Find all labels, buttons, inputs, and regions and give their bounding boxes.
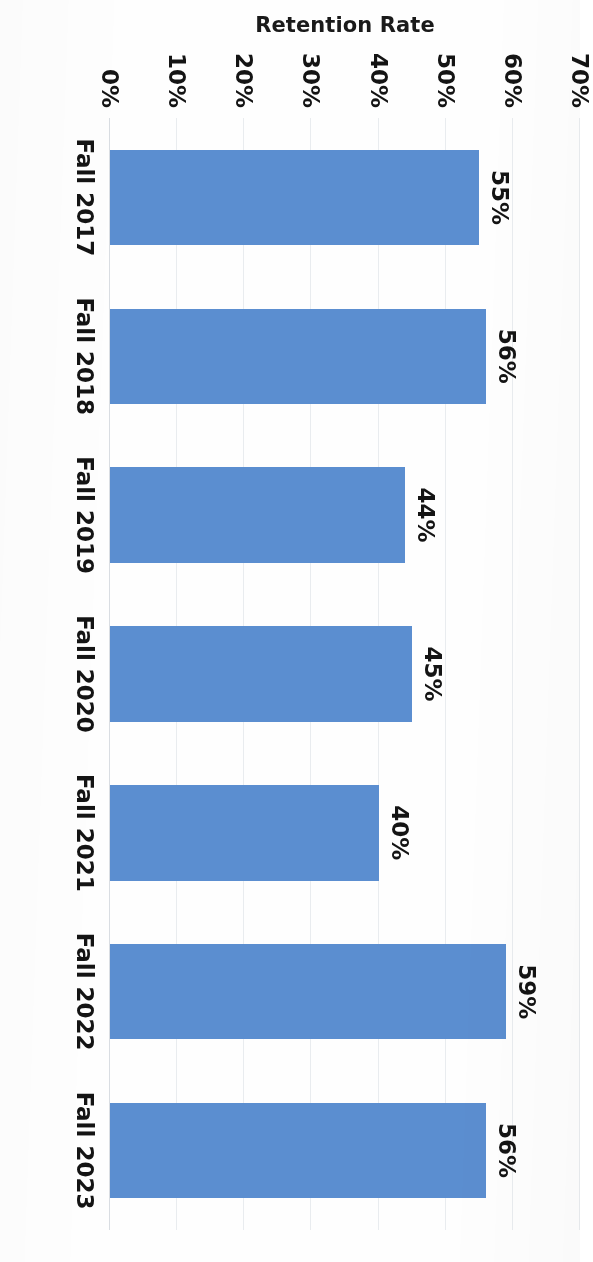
value-axis-tick-labels: 0%10%20%30%40%50%60%70% — [110, 40, 580, 114]
category-label: Fall 2022 — [72, 933, 98, 1051]
value-axis-title: Retention Rate — [110, 8, 580, 42]
bar[interactable] — [110, 1103, 486, 1198]
category-label: Fall 2020 — [72, 615, 98, 733]
plot-area: 55%56%44%45%40%59%56% — [110, 118, 580, 1230]
value-tick-label: 0% — [97, 69, 123, 108]
category-label: Fall 2021 — [72, 774, 98, 892]
bar-slot: 55% — [110, 150, 580, 245]
bar-slot: 40% — [110, 785, 580, 880]
value-axis-title-text: Retention Rate — [255, 13, 435, 37]
bar[interactable] — [110, 467, 405, 562]
bar-slot: 56% — [110, 309, 580, 404]
bar-slot: 45% — [110, 626, 580, 721]
category-label: Fall 2017 — [72, 139, 98, 257]
bar-value-label: 56% — [494, 1103, 520, 1198]
bar-value-label: 44% — [413, 467, 439, 562]
bar[interactable] — [110, 626, 412, 721]
bar[interactable] — [110, 150, 479, 245]
bar-value-label: 59% — [514, 944, 540, 1039]
bar-value-label: 40% — [387, 785, 413, 880]
value-tick-label: 40% — [366, 53, 392, 108]
value-tick-label: 30% — [298, 53, 324, 108]
value-tick-label: 60% — [500, 53, 526, 108]
bar[interactable] — [110, 309, 486, 404]
value-tick-label: 50% — [433, 53, 459, 108]
bar[interactable] — [110, 944, 506, 1039]
bar-series: 55%56%44%45%40%59%56% — [110, 118, 580, 1230]
value-tick-label: 20% — [231, 53, 257, 108]
bar-value-label: 55% — [487, 150, 513, 245]
bar[interactable] — [110, 785, 379, 880]
category-label: Fall 2019 — [72, 456, 98, 574]
bar-value-label: 45% — [420, 626, 446, 721]
category-label: Fall 2018 — [72, 297, 98, 415]
category-label: Fall 2023 — [72, 1092, 98, 1210]
bar-slot: 44% — [110, 467, 580, 562]
bar-value-label: 56% — [494, 309, 520, 404]
bar-slot: 56% — [110, 1103, 580, 1198]
category-axis-labels: Fall 2017Fall 2018Fall 2019Fall 2020Fall… — [50, 118, 110, 1230]
value-tick-label: 70% — [567, 53, 593, 108]
bar-slot: 59% — [110, 944, 580, 1039]
value-tick-label: 10% — [164, 53, 190, 108]
